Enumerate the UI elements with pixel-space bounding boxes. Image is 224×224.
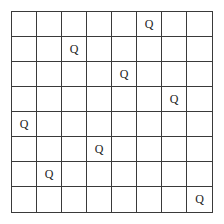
board-cell-r6-c4 <box>112 162 137 187</box>
queen-marker: Q <box>145 17 154 32</box>
board-cell-r3-c4 <box>112 87 137 112</box>
board-cell-r1-c4 <box>112 37 137 62</box>
board-cell-r2-c3 <box>87 62 112 87</box>
board-cell-r0-c1 <box>37 12 62 37</box>
board-cell-r5-c0 <box>12 137 37 162</box>
board-cell-r2-c6 <box>162 62 187 87</box>
board-cell-r5-c5 <box>137 137 162 162</box>
board-cell-r5-c3: Q <box>87 137 112 162</box>
board-cell-r2-c0 <box>12 62 37 87</box>
board-cell-r3-c5 <box>137 87 162 112</box>
board-cell-r6-c3 <box>87 162 112 187</box>
board-cell-r0-c3 <box>87 12 112 37</box>
board-cell-r1-c3 <box>87 37 112 62</box>
board-cell-r5-c7 <box>187 137 212 162</box>
board-cell-r7-c0 <box>12 187 37 212</box>
board-cell-r3-c2 <box>62 87 87 112</box>
board-cell-r0-c7 <box>187 12 212 37</box>
board-cell-r4-c2 <box>62 112 87 137</box>
board-cell-r5-c4 <box>112 137 137 162</box>
board-cell-r7-c5 <box>137 187 162 212</box>
board-cell-r4-c6 <box>162 112 187 137</box>
board-cell-r5-c1 <box>37 137 62 162</box>
board-cell-r3-c1 <box>37 87 62 112</box>
queen-marker: Q <box>45 167 54 182</box>
board-cell-r7-c6 <box>162 187 187 212</box>
board-cell-r4-c7 <box>187 112 212 137</box>
queen-marker: Q <box>20 117 29 132</box>
board-cell-r3-c7 <box>187 87 212 112</box>
board-cell-r3-c3 <box>87 87 112 112</box>
queen-marker: Q <box>70 42 79 57</box>
board-cell-r4-c0: Q <box>12 112 37 137</box>
board-cell-r6-c2 <box>62 162 87 187</box>
board-cell-r7-c2 <box>62 187 87 212</box>
board-cell-r0-c0 <box>12 12 37 37</box>
board-cell-r2-c7 <box>187 62 212 87</box>
eight-queens-board: QQQQQQQQ <box>11 11 213 213</box>
board-cell-r3-c6: Q <box>162 87 187 112</box>
queen-marker: Q <box>95 142 104 157</box>
board-cell-r5-c2 <box>62 137 87 162</box>
board-cell-r7-c3 <box>87 187 112 212</box>
board-cell-r4-c4 <box>112 112 137 137</box>
board-cell-r0-c5: Q <box>137 12 162 37</box>
board-cell-r4-c5 <box>137 112 162 137</box>
board-cell-r6-c5 <box>137 162 162 187</box>
board-cell-r7-c7: Q <box>187 187 212 212</box>
board-cell-r2-c2 <box>62 62 87 87</box>
board-cell-r1-c5 <box>137 37 162 62</box>
board-cell-r5-c6 <box>162 137 187 162</box>
board-cell-r1-c6 <box>162 37 187 62</box>
queen-marker: Q <box>120 67 129 82</box>
board-cell-r2-c4: Q <box>112 62 137 87</box>
board-cell-r0-c2 <box>62 12 87 37</box>
board-cell-r7-c1 <box>37 187 62 212</box>
board-cell-r4-c1 <box>37 112 62 137</box>
board-cell-r1-c2: Q <box>62 37 87 62</box>
board-cell-r6-c1: Q <box>37 162 62 187</box>
queen-marker: Q <box>195 192 204 207</box>
board-cell-r6-c6 <box>162 162 187 187</box>
board-cell-r7-c4 <box>112 187 137 212</box>
board-cell-r4-c3 <box>87 112 112 137</box>
board-cell-r0-c6 <box>162 12 187 37</box>
board-cell-r2-c1 <box>37 62 62 87</box>
board-cell-r1-c0 <box>12 37 37 62</box>
board-cell-r6-c0 <box>12 162 37 187</box>
board-cell-r2-c5 <box>137 62 162 87</box>
board-cell-r6-c7 <box>187 162 212 187</box>
board-cell-r1-c1 <box>37 37 62 62</box>
board-cell-r0-c4 <box>112 12 137 37</box>
board-cell-r3-c0 <box>12 87 37 112</box>
queen-marker: Q <box>170 92 179 107</box>
board-cell-r1-c7 <box>187 37 212 62</box>
